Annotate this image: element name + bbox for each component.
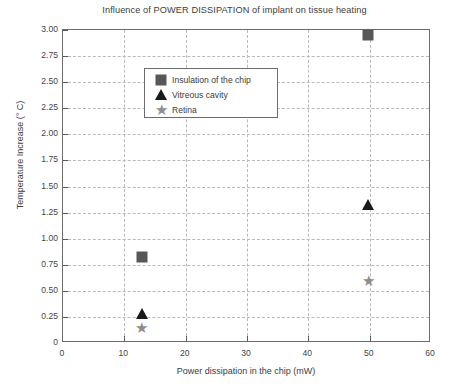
y-tick-mark: [63, 56, 68, 57]
star-marker-icon: ★: [150, 103, 172, 117]
x-tick-mark: [308, 336, 309, 341]
x-tick-label: 30: [241, 348, 251, 358]
gridline-horizontal: [63, 265, 429, 266]
y-tick-mark: [63, 160, 68, 161]
x-tick-label: 50: [364, 348, 374, 358]
x-tick-mark: [247, 336, 248, 341]
y-tick-mark: [63, 134, 68, 135]
y-tick-label: 2.75: [18, 50, 58, 60]
y-tick-mark: [63, 265, 68, 266]
gridline-vertical: [370, 30, 371, 341]
data-point-triangle: [136, 308, 148, 319]
legend-label: Retina: [172, 105, 197, 115]
x-axis-label: Power dissipation in the chip (mW): [62, 366, 430, 376]
gridline-horizontal: [63, 56, 429, 57]
y-tick-mark: [63, 317, 68, 318]
y-tick-mark: [63, 239, 68, 240]
y-tick-label: 0.50: [18, 285, 58, 295]
gridline-horizontal: [63, 291, 429, 292]
x-tick-label: 40: [303, 348, 313, 358]
legend-label: Insulation of the chip: [172, 75, 251, 85]
y-tick-label: 0: [18, 337, 58, 347]
x-tick-mark: [370, 336, 371, 341]
legend-item-vitreous-cavity: Vitreous cavity: [150, 87, 272, 102]
chart-title: Influence of POWER DISSIPATION of implan…: [0, 5, 469, 15]
data-point-star: ★: [135, 322, 149, 334]
gridline-vertical: [308, 30, 309, 341]
y-tick-mark: [63, 108, 68, 109]
legend-item-retina: ★ Retina: [150, 102, 272, 117]
gridline-horizontal: [63, 160, 429, 161]
legend-item-insulation-of-the-chip: Insulation of the chip: [150, 72, 272, 87]
gridline-horizontal: [63, 187, 429, 188]
triangle-marker-icon: [150, 88, 172, 102]
y-tick-mark: [63, 30, 68, 31]
data-point-square: [363, 30, 374, 41]
x-tick-label: 60: [425, 348, 435, 358]
square-marker-icon: [150, 73, 172, 87]
y-tick-label: 3.00: [18, 24, 58, 34]
y-tick-mark: [63, 82, 68, 83]
gridline-vertical: [124, 30, 125, 341]
x-tick-label: 20: [180, 348, 190, 358]
x-tick-label: 10: [119, 348, 129, 358]
y-axis-label: Temperature Increase (° C): [15, 65, 25, 245]
y-tick-label: 0.75: [18, 259, 58, 269]
gridline-horizontal: [63, 213, 429, 214]
gridline-horizontal: [63, 239, 429, 240]
data-point-star: ★: [361, 275, 375, 287]
x-tick-mark: [124, 336, 125, 341]
y-tick-mark: [63, 187, 68, 188]
y-tick-mark: [63, 291, 68, 292]
gridline-horizontal: [63, 317, 429, 318]
gridline-horizontal: [63, 134, 429, 135]
chart-legend: Insulation of the chip Vitreous cavity ★…: [144, 68, 278, 118]
data-point-triangle: [362, 199, 374, 210]
x-tick-mark: [186, 336, 187, 341]
scatter-chart-figure: Influence of POWER DISSIPATION of implan…: [0, 0, 469, 385]
plot-area: ★★ Insulation of the chip Vitreous cavit…: [62, 29, 430, 342]
y-tick-mark: [63, 213, 68, 214]
x-tick-label: 0: [60, 348, 65, 358]
y-tick-label: 0.25: [18, 311, 58, 321]
data-point-square: [136, 252, 147, 263]
legend-label: Vitreous cavity: [172, 90, 228, 100]
